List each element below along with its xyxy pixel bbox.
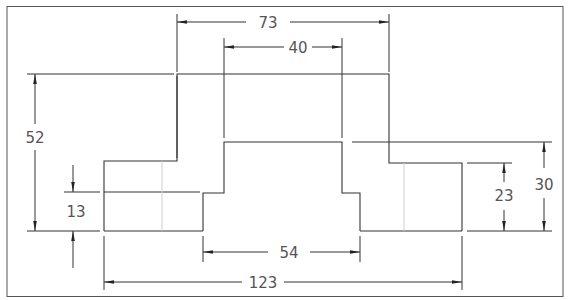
technical-drawing: 73 40 52 13 54 123 23 30 <box>0 0 571 300</box>
dim-right-shoulder-height-label: 23 <box>494 187 513 205</box>
dimension-lines <box>35 22 544 282</box>
dim-overall-width-label: 123 <box>249 274 278 292</box>
part-outline <box>104 74 462 231</box>
dim-top-width-label: 73 <box>258 14 277 32</box>
dim-bottom-inner-width-label: 54 <box>279 244 298 262</box>
dim-inner-top-width-label: 40 <box>288 39 307 57</box>
dim-right-step-height-label: 30 <box>534 176 553 194</box>
hidden-lines <box>162 161 404 231</box>
dim-overall-height-label: 52 <box>25 129 44 147</box>
dim-left-step-height-label: 13 <box>66 203 85 221</box>
